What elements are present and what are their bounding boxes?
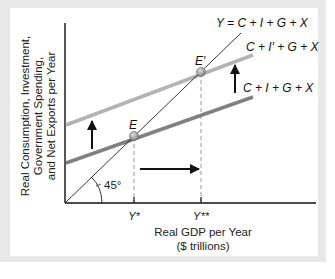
line-lower-ae — [66, 97, 253, 163]
label-upper-ae: C + I′ + G + X — [246, 40, 320, 54]
label-lower-ae: C + I + G + X — [243, 81, 314, 95]
line-45-degree — [65, 33, 241, 203]
angle-arc — [91, 177, 102, 203]
y-axis-label-line2: Government Spending, — [32, 57, 44, 175]
label-angle: 45° — [104, 179, 121, 191]
label-e: E — [129, 118, 138, 132]
point-e-prime — [197, 68, 206, 77]
label-e-prime: E′ — [195, 54, 206, 68]
point-e — [130, 132, 139, 141]
line-upper-ae — [66, 55, 253, 125]
x-axis-sublabel: ($ trillions) — [176, 240, 229, 252]
label-45-line: Y = C + I + G + X — [216, 16, 309, 30]
tick-label-y-star: Y* — [128, 210, 140, 222]
chart-svg: E E′ Y = C + I + G + X C + I′ + G + X C … — [0, 0, 335, 279]
tick-label-y-double-star: Y** — [193, 210, 210, 222]
y-axis-label-line3: and Net Exports per Year — [45, 52, 57, 181]
y-axis-label-line1: Real Consumption, Investment, — [19, 36, 31, 196]
x-axis-label: Real GDP per Year — [154, 226, 252, 238]
